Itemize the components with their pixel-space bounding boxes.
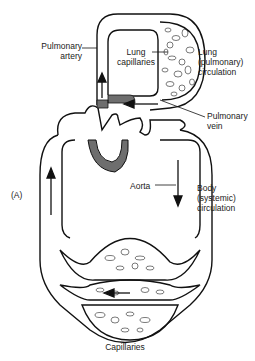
label-line: Body xyxy=(197,183,236,193)
label-line: Pulmonary xyxy=(28,41,82,51)
label-line: circulation xyxy=(197,203,236,213)
label-pulmonary-artery: Pulmonary artery xyxy=(28,41,82,61)
arrow-left-capillaries xyxy=(104,289,114,297)
label-line: capillaries xyxy=(114,57,158,67)
heart-outline xyxy=(58,106,185,135)
label-line: vein xyxy=(207,121,248,131)
label-lung-capillaries: Lung capillaries xyxy=(114,47,158,67)
lung-tissue xyxy=(160,22,200,100)
label-line: (pulmonary) xyxy=(198,57,243,67)
label-aorta: Aorta xyxy=(130,181,150,191)
systemic-capillary-texture xyxy=(95,249,164,332)
figure-label: (A) xyxy=(11,190,22,200)
capillary-bed-middle xyxy=(60,280,200,300)
heart-septum xyxy=(88,140,128,172)
label-lung-circulation: Lung (pulmonary) circulation xyxy=(198,47,243,77)
label-pulmonary-vein: Pulmonary vein xyxy=(207,111,248,131)
label-line: Lung xyxy=(114,47,158,57)
capillary-bed-upper xyxy=(60,239,200,281)
label-line: circulation xyxy=(198,67,243,77)
arrow-up-vena-cava xyxy=(47,168,55,178)
arrow-down-aorta xyxy=(174,196,182,206)
label-line: (systemic) xyxy=(197,193,236,203)
label-body-circulation: Body (systemic) circulation xyxy=(197,183,236,213)
label-capillaries: Capillaries xyxy=(90,342,160,352)
label-line: Pulmonary xyxy=(207,111,248,121)
arrow-up-pulmonary-artery xyxy=(98,73,106,82)
label-line: Lung xyxy=(198,47,243,57)
lung-capillary-texture xyxy=(162,28,195,96)
label-line: artery xyxy=(28,51,82,61)
